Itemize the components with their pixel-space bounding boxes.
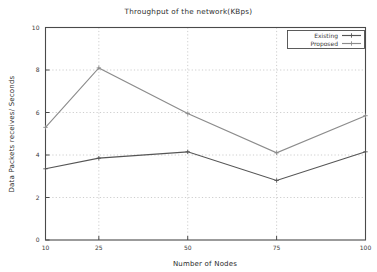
series-line-proposed xyxy=(46,68,366,153)
x-tick-label: 50 xyxy=(184,244,192,251)
y-axis-tickmarks xyxy=(46,28,50,241)
series-line-existing xyxy=(46,152,366,181)
chart-figure: Throughput of the network(KBps) 0246810 … xyxy=(0,0,377,272)
data-point-marker xyxy=(363,113,367,117)
chart-legend: Existing Proposed xyxy=(288,31,365,49)
x-axis-tick-labels: 10255075100 xyxy=(42,244,372,251)
data-point-marker xyxy=(363,150,367,154)
x-tick-label: 10 xyxy=(42,244,50,251)
x-tick-label: 100 xyxy=(360,244,372,251)
horizontal-gridlines xyxy=(46,70,366,198)
vertical-gridlines xyxy=(99,28,277,241)
line-chart-plot: 0246810 10255075100 Number of Nodes Data… xyxy=(0,0,377,272)
data-point-marker xyxy=(274,178,278,182)
data-point-marker xyxy=(274,151,278,155)
y-axis-title: Data Packets receives/ Seconds xyxy=(8,75,16,192)
data-point-marker xyxy=(43,167,47,171)
data-point-marker xyxy=(97,156,101,160)
y-axis-tick-labels: 0246810 xyxy=(32,24,40,244)
y-tick-label: 10 xyxy=(32,24,40,31)
legend-marker xyxy=(349,33,353,37)
legend-sample-lines xyxy=(342,33,361,45)
y-tick-label: 2 xyxy=(36,194,40,201)
data-point-marker xyxy=(186,111,190,115)
y-tick-label: 6 xyxy=(36,109,40,116)
data-point-marker xyxy=(186,150,190,154)
legend-marker xyxy=(349,41,353,45)
plot-frame xyxy=(46,28,366,241)
y-tick-label: 4 xyxy=(36,151,40,158)
y-tick-label: 0 xyxy=(36,236,40,243)
data-series-group xyxy=(43,66,367,183)
x-axis-tickmarks xyxy=(46,236,366,240)
legend-item-existing: Existing xyxy=(314,32,338,40)
legend-item-proposed: Proposed xyxy=(310,40,338,48)
x-tick-label: 75 xyxy=(273,244,281,251)
x-tick-label: 25 xyxy=(95,244,103,251)
y-tick-label: 8 xyxy=(36,66,40,73)
x-axis-title: Number of Nodes xyxy=(173,260,237,268)
